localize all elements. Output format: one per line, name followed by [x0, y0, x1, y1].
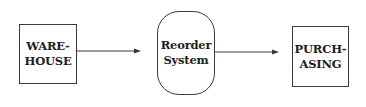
warehouse-node: WARE- HOUSE: [19, 24, 77, 84]
edge-reorder-to-purchasing: [215, 50, 279, 55]
reorder-system-node: Reorder System: [157, 11, 215, 95]
purchasing-label: PURCH- ASING: [295, 42, 347, 72]
purchasing-node: PURCH- ASING: [292, 26, 349, 87]
arrowhead-icon: [272, 50, 279, 55]
warehouse-label: WARE- HOUSE: [25, 39, 72, 69]
edge-warehouse-to-reorder: [77, 49, 141, 54]
arrowhead-icon: [134, 49, 141, 54]
reorder-system-label: Reorder System: [161, 38, 212, 68]
